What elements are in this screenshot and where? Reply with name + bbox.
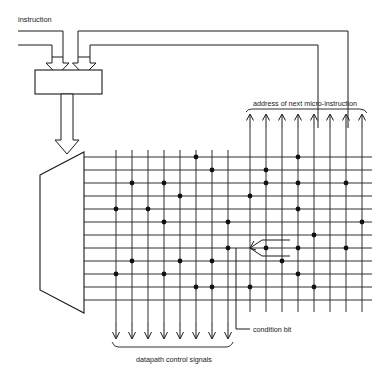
instruction-label: instruction xyxy=(18,15,52,24)
matrix-dot xyxy=(130,181,135,186)
register-box xyxy=(35,70,102,94)
condition-bit-label: condition bit xyxy=(253,325,291,334)
matrix-dot xyxy=(210,168,215,173)
microarchitecture-diagram: instruction register decoder address of … xyxy=(0,0,381,382)
matrix-dot xyxy=(194,285,199,290)
instruction-drop-wires xyxy=(78,31,90,57)
matrix-dot xyxy=(114,207,119,212)
matrix-dot xyxy=(264,168,269,173)
matrix-dot xyxy=(248,194,253,199)
matrix-dot xyxy=(114,272,119,277)
matrix-dot xyxy=(344,246,349,251)
matrix-dot xyxy=(130,259,135,264)
matrix-dot xyxy=(360,220,365,225)
condition-bit-leader xyxy=(236,248,250,329)
matrix-dot xyxy=(248,285,253,290)
matrix-dot xyxy=(210,285,215,290)
address-next-label: address of next micro-instruction xyxy=(253,99,357,108)
matrix-dot xyxy=(296,207,301,212)
matrix-dot xyxy=(210,259,215,264)
matrix-dot xyxy=(194,155,199,160)
matrix-right-columns xyxy=(250,128,362,312)
matrix-dot xyxy=(226,220,231,225)
matrix-dot xyxy=(178,259,183,264)
matrix-dot xyxy=(296,246,301,251)
matrix-dot xyxy=(296,272,301,277)
diagram-canvas: instruction register decoder address of … xyxy=(0,0,381,382)
instruction-bus xyxy=(18,31,63,57)
feedback-wire-inner xyxy=(90,45,318,128)
address-brace xyxy=(246,109,367,113)
register-to-decoder-arrow xyxy=(55,94,79,154)
matrix-dot xyxy=(264,246,269,251)
matrix-dot xyxy=(280,259,285,264)
matrix-dot xyxy=(296,181,301,186)
datapath-brace xyxy=(112,342,233,347)
matrix-dot xyxy=(312,233,317,238)
matrix-dot xyxy=(162,272,167,277)
decoder-shape xyxy=(40,152,84,313)
matrix-dot xyxy=(296,155,301,160)
matrix-dot xyxy=(264,181,269,186)
datapath-label: datapath control signals xyxy=(136,355,212,364)
matrix-left-columns xyxy=(116,150,228,322)
matrix-dot xyxy=(146,207,151,212)
matrix-dot xyxy=(162,181,167,186)
matrix-dot xyxy=(162,220,167,225)
feedback-wire-outer xyxy=(78,31,348,128)
matrix-dot xyxy=(312,285,317,290)
matrix-dot xyxy=(344,181,349,186)
pla-matrix xyxy=(84,128,372,322)
matrix-dot xyxy=(226,246,231,251)
matrix-dot xyxy=(178,194,183,199)
datapath-arrows xyxy=(113,322,232,339)
